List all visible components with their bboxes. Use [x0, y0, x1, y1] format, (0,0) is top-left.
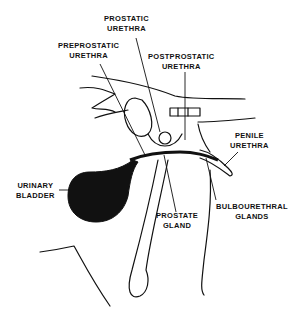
label-line: PREPROSTATIC: [58, 41, 119, 51]
leg-outline: [202, 170, 211, 295]
diagram-drawing: [0, 0, 307, 321]
label-line: URETHRA: [148, 62, 215, 72]
label-line: BULBOURETHRAL: [216, 202, 288, 212]
label-line: PROSTATIC: [104, 14, 149, 24]
label-urinary-bladder: URINARY BLADDER: [16, 181, 55, 201]
anatomy-diagram: PROSTATIC URETHRA PREPROSTATIC URETHRA P…: [0, 0, 307, 321]
label-line: URETHRA: [58, 51, 119, 61]
label-line: PENILE: [230, 131, 269, 141]
pelvic-bone: [124, 98, 151, 136]
spine-outline: [92, 76, 245, 99]
label-prostate-gland: PROSTATE GLAND: [156, 211, 198, 231]
label-line: POSTPROSTATIC: [148, 52, 215, 62]
label-line: BLADDER: [16, 191, 55, 201]
urethra-line: [130, 152, 218, 160]
prostate-shape: [159, 132, 171, 144]
urinary-bladder-shape: [68, 160, 138, 222]
label-bulbourethral-glands: BULBOURETHRAL GLANDS: [216, 202, 288, 222]
leader-penile: [224, 152, 238, 166]
label-line: URETHRA: [104, 24, 149, 34]
label-line: PROSTATE: [156, 211, 198, 221]
label-line: GLANDS: [216, 212, 288, 222]
label-line: URINARY: [16, 181, 55, 191]
label-penile-urethra: PENILE URETHRA: [230, 131, 269, 151]
leader-prostate-gland: [164, 155, 176, 212]
label-line: GLAND: [156, 221, 198, 231]
label-preprostatic-urethra: PREPROSTATIC URETHRA: [58, 41, 119, 61]
label-postprostatic-urethra: POSTPROSTATIC URETHRA: [148, 52, 215, 72]
label-prostatic-urethra: PROSTATIC URETHRA: [104, 14, 149, 34]
label-line: URETHRA: [230, 141, 269, 151]
